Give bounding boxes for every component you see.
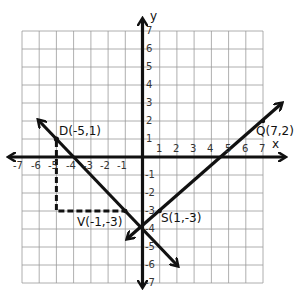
x-tick: -2 (100, 161, 110, 171)
y-tick: -7 (145, 278, 155, 288)
y-tick: 6 (146, 44, 152, 54)
x-tick: 4 (207, 144, 213, 154)
y-axis-label: y (150, 10, 157, 22)
x-tick: -3 (83, 161, 93, 171)
y-tick: -4 (145, 224, 155, 234)
x-tick: 7 (259, 144, 265, 154)
y-tick: -1 (145, 170, 155, 180)
point-v-dot (123, 209, 127, 213)
x-tick: -4 (66, 161, 76, 171)
x-tick: 5 (225, 144, 231, 154)
point-s-label: S(1,-3) (161, 212, 201, 224)
y-tick: 5 (146, 62, 152, 72)
x-tick: 6 (242, 144, 248, 154)
y-tick: 2 (146, 116, 152, 126)
point-v-label: V(-1,-3) (77, 216, 122, 228)
x-axis-label: x (272, 138, 279, 150)
y-tick: -5 (145, 242, 155, 252)
x-tick: 1 (156, 144, 162, 154)
y-tick: -6 (145, 260, 155, 270)
x-tick: -7 (13, 161, 23, 171)
point-d-label: D(-5,1) (59, 125, 101, 137)
point-q-label: Q(7,2) (256, 125, 294, 137)
y-tick: 3 (146, 98, 152, 108)
y-tick: 1 (146, 134, 152, 144)
x-tick: 2 (173, 144, 179, 154)
y-tick: 7 (146, 26, 152, 36)
x-tick: -6 (31, 161, 41, 171)
x-tick: 3 (190, 144, 196, 154)
x-tick: -1 (117, 161, 127, 171)
y-tick: 4 (146, 80, 152, 90)
x-tick: -5 (48, 161, 58, 171)
point-q-dot (261, 119, 265, 123)
y-tick: -2 (145, 188, 155, 198)
y-tick: -3 (145, 206, 155, 216)
